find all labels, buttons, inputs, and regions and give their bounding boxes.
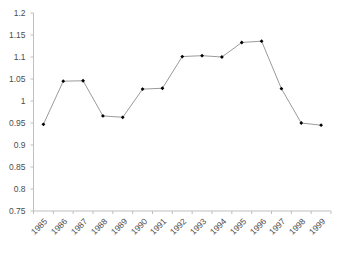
- line-chart: 1.21.151.11.0510.950.90.850.80.75 198519…: [0, 0, 338, 254]
- axis-ticks: [31, 13, 332, 214]
- data-markers: [42, 39, 323, 127]
- axes: [34, 13, 332, 211]
- data-point: [319, 123, 323, 127]
- data-point: [180, 55, 184, 59]
- data-point: [42, 122, 46, 126]
- data-point: [81, 79, 85, 83]
- data-point: [161, 86, 165, 90]
- data-point: [280, 87, 284, 91]
- data-point: [101, 114, 105, 118]
- data-point: [61, 79, 65, 83]
- plot-area: [0, 0, 338, 254]
- data-point: [299, 121, 303, 125]
- data-line: [43, 41, 321, 125]
- data-point: [200, 54, 204, 58]
- data-point: [260, 39, 264, 43]
